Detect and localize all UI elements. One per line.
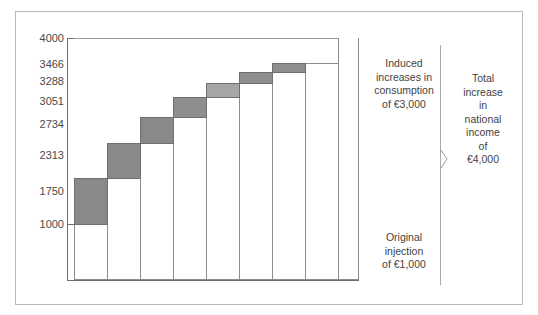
- note-original-line-3: of €1,000: [368, 258, 440, 272]
- note-induced-line-1: Induced: [368, 57, 440, 71]
- multiplier-effect-figure: 4000 3466 3288 3051 2734 2313 1750 1000: [0, 0, 538, 315]
- note-original-line-2: injection: [368, 245, 440, 259]
- note-total-line-5: income: [452, 126, 514, 140]
- note-total-line-3: in: [452, 99, 514, 113]
- note-induced-increases: Induced increases in consumption of €3,0…: [368, 57, 440, 111]
- note-total-line-7: €4,000: [452, 153, 514, 167]
- note-total-increase: Total increase in national income of €4,…: [452, 72, 514, 167]
- note-original-injection: Original injection of €1,000: [368, 231, 440, 272]
- note-total-line-6: of: [452, 140, 514, 154]
- note-induced-line-4: of €3,000: [368, 98, 440, 112]
- note-induced-line-3: consumption: [368, 84, 440, 98]
- note-total-line-1: Total: [452, 72, 514, 86]
- note-original-line-1: Original: [368, 231, 440, 245]
- note-induced-line-2: increases in: [368, 71, 440, 85]
- note-total-line-4: national: [452, 113, 514, 127]
- note-total-line-2: increase: [452, 86, 514, 100]
